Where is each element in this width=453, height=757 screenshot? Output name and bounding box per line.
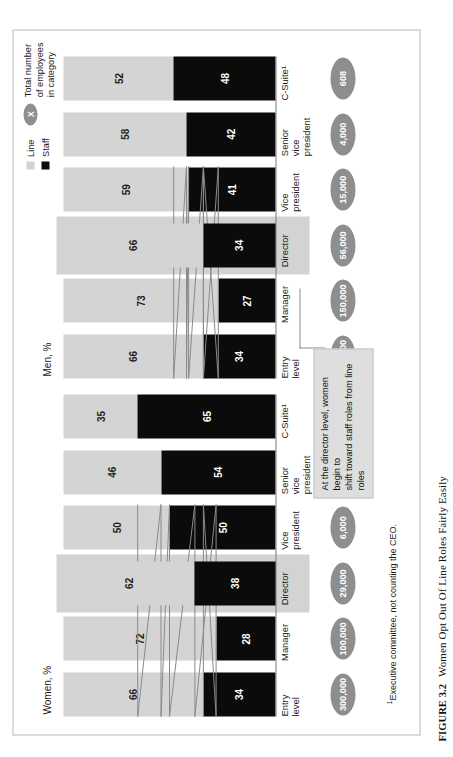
total-wrap: 608 [330,56,355,100]
bar-segment-line: 66 [63,223,203,267]
bar-segment-staff: 50 [169,505,275,549]
total-oval: 608 [330,57,355,99]
bar-column[interactable]: 66 34 [63,672,275,716]
bar-column-highlighted[interactable]: 62 38 [63,561,275,605]
bar-segment-line: 66 [63,334,203,378]
bar-segment-staff: 38 [194,561,275,605]
figure-title: Women Opt Out Of Line Roles Fairly Easil… [435,476,447,677]
category-label: Manager [279,616,319,660]
total-wrap: 100,000 [330,616,355,660]
panel-title-women: Women, % [41,665,52,714]
legend-item-line: Line [25,138,35,170]
bar-segment-staff: 65 [137,394,275,438]
bar-column[interactable]: 58 42 [63,112,275,156]
panel-title-men: Men, % [41,342,52,376]
bar-column[interactable]: 59 41 [63,167,275,211]
total-wrap: 15,000 [330,167,355,211]
axis-line [275,56,276,378]
rotated-figure-stage: Line Staff X Total number of employees i… [0,0,453,757]
category-label: Director [279,223,319,267]
bar-segment-staff: 34 [203,672,275,716]
figure-number: FIGURE 3.2 [436,683,447,741]
total-oval-icon: X [23,103,37,125]
bar-segment-staff: 48 [173,56,275,100]
line-swatch-icon [26,161,34,169]
total-oval: 300,000 [330,673,355,715]
total-oval: 15,000 [330,168,355,210]
bar-column[interactable]: 66 34 [63,334,275,378]
footnote-text: Executive committee, not counting the CE… [387,524,397,701]
category-label: C-Suite¹ [279,56,319,100]
plot-area-women: 66 34 72 28 62 38 50 50 46 54 [63,394,275,716]
category-label: Vice president [279,505,319,549]
total-oval: 4,000 [330,113,355,155]
bar-segment-line: 52 [63,56,173,100]
category-label: Director [279,561,319,605]
bar-segment-staff: 41 [188,167,275,211]
bar-column[interactable]: 52 48 [63,56,275,100]
total-oval: 100,000 [330,617,355,659]
bar-segment-line: 59 [63,167,188,211]
total-wrap: 4,000 [330,112,355,156]
bar-segment-staff: 27 [218,278,275,322]
bar-column[interactable]: 73 27 [63,278,275,322]
bar-column[interactable]: 72 28 [63,616,275,660]
bar-segment-line: 35 [63,394,137,438]
total-wrap: 6,000 [330,505,355,549]
bar-segment-line: 73 [63,278,218,322]
legend-label-line: Line [25,139,35,156]
total-oval: 56,000 [330,224,355,266]
bar-column[interactable]: 46 54 [63,450,275,494]
total-wrap: 29,000 [330,561,355,605]
bar-column-highlighted[interactable]: 66 34 [63,223,275,267]
bar-segment-line: 72 [63,616,216,660]
total-wrap: 56,000 [330,223,355,267]
bar-segment-line: 58 [63,112,186,156]
bar-segment-line: 50 [63,505,169,549]
footnote-marker: 1 [385,700,392,704]
bar-column[interactable]: 35 65 [63,394,275,438]
category-label: Vice president [279,167,319,211]
total-wrap: 150,000 [330,278,355,322]
bar-segment-staff: 42 [186,112,275,156]
bar-segment-line: 62 [63,561,194,605]
annotation-callout: At the director level, women begin to sh… [313,348,373,498]
chart-frame: Line Staff X Total number of employees i… [12,29,420,735]
bar-column[interactable]: 50 50 [63,505,275,549]
bar-segment-staff: 54 [161,450,275,494]
callout-leader-line [299,288,325,348]
total-wrap: 300,000 [330,672,355,716]
total-oval: 29,000 [330,562,355,604]
bar-segment-staff: 34 [203,223,275,267]
figure-caption: FIGURE 3.2Women Opt Out Of Line Roles Fa… [435,21,447,741]
bar-segment-line: 46 [63,450,161,494]
plot-area-men: 66 34 73 27 66 34 59 41 58 42 [63,56,275,378]
bar-segment-line: 66 [63,672,203,716]
total-oval: 150,000 [330,279,355,321]
axis-line [275,394,276,716]
panel-men: Men, % 66 34 73 27 66 34 59 41 [39,56,411,378]
bar-segment-staff: 34 [203,334,275,378]
total-oval: 6,000 [330,506,355,548]
category-label: Senior vice president [279,112,319,156]
category-label: Entry level [279,672,319,716]
chart-footnote: 1Executive committee, not counting the C… [385,524,397,705]
category-totals-men: 300,000 150,000 56,000 15,000 4,000 608 [325,56,359,378]
bar-segment-staff: 28 [216,616,275,660]
